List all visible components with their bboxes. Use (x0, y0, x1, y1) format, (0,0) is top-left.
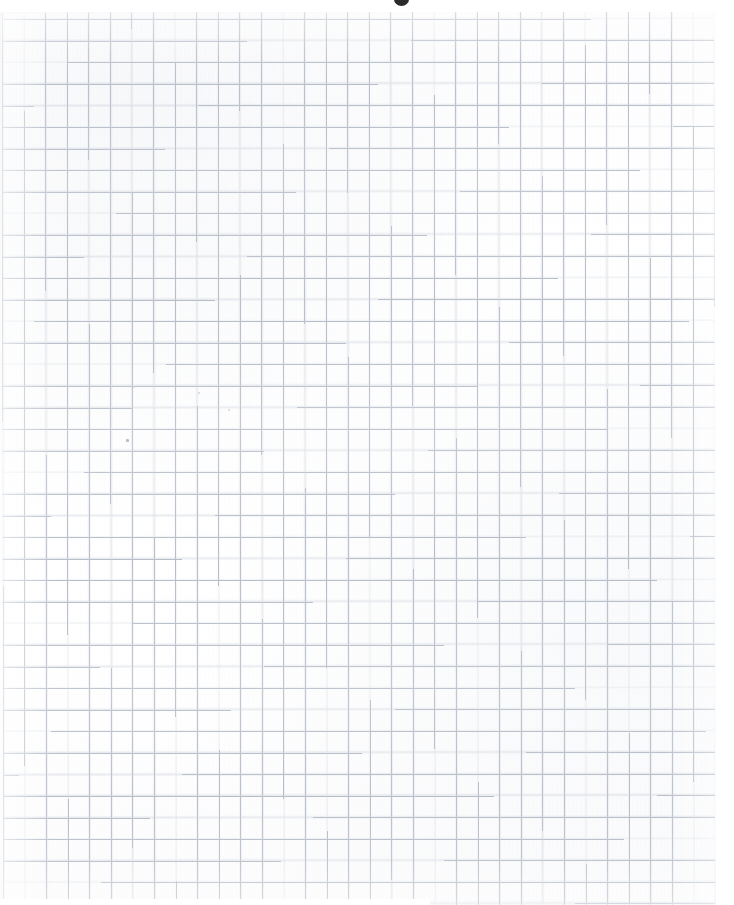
page-margin-right (716, 0, 734, 905)
dust-speck-mid (198, 392, 200, 394)
page-margin-bottom (0, 899, 430, 905)
page-margin-top (0, 0, 734, 12)
dust-speck-upper (133, 386, 135, 388)
dust-speck-right (228, 409, 230, 411)
dust-speck-left (126, 439, 129, 442)
scanned-page (0, 0, 734, 905)
quadrille-grid (2, 12, 715, 905)
grid-lines-scan-blur (2, 12, 715, 905)
